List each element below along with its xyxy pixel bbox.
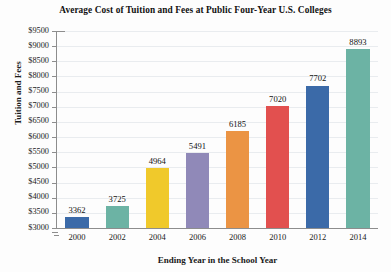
x-tick-label: 2006 bbox=[177, 232, 217, 242]
bar-value-label: 7020 bbox=[255, 94, 301, 104]
bar-value-label: 4964 bbox=[134, 156, 180, 166]
x-tick-label: 2000 bbox=[57, 232, 97, 242]
bar bbox=[226, 131, 249, 228]
y-tick-label: $3500 bbox=[0, 207, 49, 216]
y-tick-label: $5500 bbox=[0, 147, 49, 156]
y-tick-mark bbox=[52, 167, 57, 168]
bar-value-label: 6185 bbox=[215, 119, 261, 129]
gridline bbox=[57, 137, 378, 138]
x-tick-label: 2014 bbox=[338, 232, 378, 242]
bar-value-label: 3725 bbox=[94, 194, 140, 204]
x-tick-label: 2010 bbox=[258, 232, 298, 242]
bar bbox=[266, 106, 289, 228]
chart-title: Average Cost of Tuition and Fees at Publ… bbox=[0, 5, 391, 15]
gridline bbox=[57, 92, 378, 93]
y-tick-mark bbox=[52, 76, 57, 77]
bar-value-label: 7702 bbox=[295, 73, 341, 83]
y-tick-label: $4500 bbox=[0, 177, 49, 186]
y-tick-label: $8500 bbox=[0, 56, 49, 65]
x-tick-label: 2004 bbox=[137, 232, 177, 242]
y-tick-label: $8000 bbox=[0, 71, 49, 80]
bar bbox=[306, 86, 329, 229]
bar-chart: Average Cost of Tuition and Fees at Publ… bbox=[0, 0, 391, 272]
gridline bbox=[57, 183, 378, 184]
y-tick-label: $5000 bbox=[0, 162, 49, 171]
y-tick-mark bbox=[52, 46, 57, 47]
y-tick-mark bbox=[52, 152, 57, 153]
gridline bbox=[57, 46, 378, 47]
y-tick-mark bbox=[52, 31, 57, 32]
y-tick-label: $9500 bbox=[0, 26, 49, 35]
x-tick-label: 2002 bbox=[97, 232, 137, 242]
bar bbox=[146, 168, 169, 228]
y-tick-mark bbox=[52, 228, 57, 229]
axis-corner-stub bbox=[56, 31, 65, 32]
gridline bbox=[57, 61, 378, 62]
gridline bbox=[57, 31, 378, 32]
bar-value-label: 3362 bbox=[54, 205, 100, 215]
bar bbox=[65, 217, 88, 228]
y-tick-label: $6500 bbox=[0, 116, 49, 125]
bar-value-label: 8893 bbox=[335, 37, 381, 47]
y-tick-mark bbox=[52, 107, 57, 108]
y-tick-mark bbox=[52, 198, 57, 199]
bar bbox=[106, 206, 129, 228]
y-tick-mark bbox=[52, 183, 57, 184]
x-axis-line bbox=[56, 228, 378, 229]
bar bbox=[346, 49, 369, 228]
y-tick-label: $7000 bbox=[0, 101, 49, 110]
y-tick-mark bbox=[52, 92, 57, 93]
y-tick-label: $6000 bbox=[0, 132, 49, 141]
bar-value-label: 5491 bbox=[174, 141, 220, 151]
y-tick-label: $9000 bbox=[0, 41, 49, 50]
bar bbox=[186, 153, 209, 228]
y-tick-label: $3000 bbox=[0, 223, 49, 232]
x-tick-label: 2012 bbox=[298, 232, 338, 242]
x-axis-title: Ending Year in the School Year bbox=[57, 255, 378, 265]
y-tick-label: $4000 bbox=[0, 192, 49, 201]
y-tick-label: $7500 bbox=[0, 86, 49, 95]
y-tick-mark bbox=[52, 137, 57, 138]
gridline bbox=[57, 167, 378, 168]
y-tick-mark bbox=[52, 122, 57, 123]
gridline bbox=[57, 107, 378, 108]
y-tick-mark bbox=[52, 61, 57, 62]
gridline bbox=[57, 152, 378, 153]
x-tick-label: 2008 bbox=[218, 232, 258, 242]
